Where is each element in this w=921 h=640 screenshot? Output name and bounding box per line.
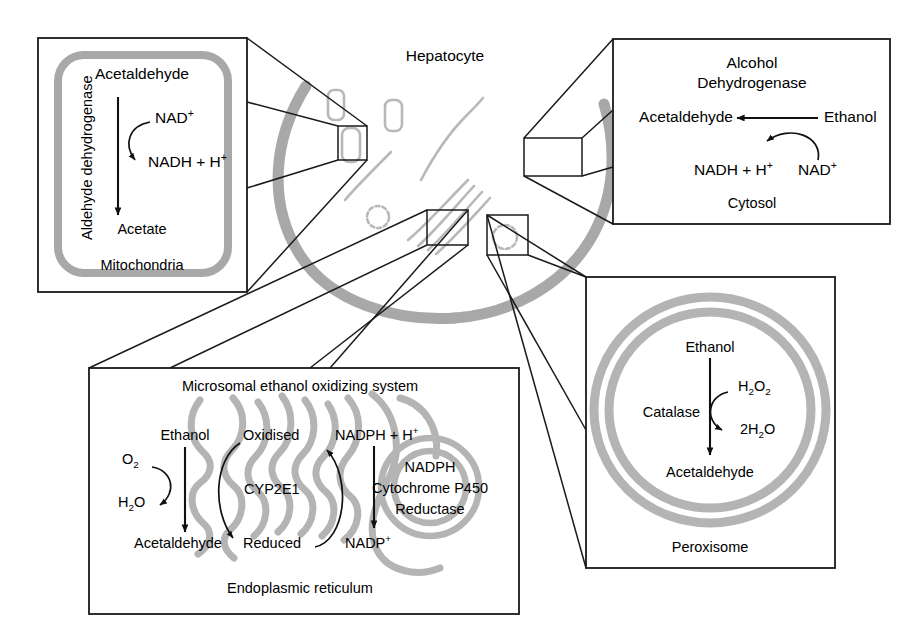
peroxisome-shape (493, 225, 517, 249)
leader-cytosol-top (524, 39, 613, 138)
er-strand (421, 98, 483, 180)
er-oxygen-label: O2 (122, 452, 139, 468)
h-symbol: H (118, 494, 128, 510)
o-subscript: 2 (133, 459, 138, 470)
leader-mitochondria-top (247, 38, 367, 126)
nadh-charge: + (221, 151, 227, 163)
mitochondria-substrate-label: Acetaldehyde (95, 66, 189, 83)
peroxisome-shape (367, 206, 389, 228)
cytosol-enzyme-line2: Dehydrogenase (697, 75, 806, 92)
er-compartment-label: Endoplasmic reticulum (227, 581, 373, 597)
er-substrate-label: Ethanol (160, 428, 209, 444)
er-state-reduced-label: Reduced (243, 536, 301, 552)
er-product-label: Acetaldehyde (134, 536, 222, 552)
nad-charge: + (188, 107, 194, 119)
peroxisome-cofactor-in-label: H2O2 (738, 379, 771, 395)
mitochondrion-shape (385, 100, 402, 131)
er-strand (428, 192, 482, 250)
er-reductase-line1: NADPH (405, 460, 456, 476)
er-state-oxidised-label: Oxidised (243, 428, 299, 444)
nadp-charge: + (385, 533, 391, 544)
leader-mitochondria-lower (247, 160, 338, 188)
peroxisome-cofactor-out-label: 2H2O (740, 422, 775, 438)
cytosol-cofactor-out-label: NADH + H+ (694, 162, 773, 179)
hepatocyte-ethanol-metabolism-figure: Hepatocyte Acetaldehyde Acetate Aldehyde… (0, 0, 921, 640)
cytosol-cofactor-in-label: NAD+ (798, 162, 837, 179)
o-symbol: O (764, 421, 775, 437)
er-water-label: H2O (118, 495, 145, 511)
o-symbol: O (122, 451, 133, 467)
leader-cytosol-bottom (524, 176, 613, 224)
peroxisome-substrate-label: Ethanol (685, 340, 734, 356)
er-reductase-line2: Cytochrome P450 (372, 481, 488, 497)
nadh-charge: + (767, 159, 773, 171)
nadh-text: NADH + H (148, 153, 221, 170)
mitochondria-product-label: Acetate (117, 222, 166, 238)
mitochondria-enzyme-label: Aldehyde dehydrogenase (80, 76, 96, 240)
mitochondria-cofactor-in-label: NAD+ (155, 110, 194, 127)
nadph-charge: + (413, 425, 419, 436)
nadh-text: NADH + H (694, 161, 767, 178)
cytosol-substrate-label: Ethanol (824, 109, 877, 126)
nad-charge: + (831, 159, 837, 171)
nadp-text: NADP (345, 535, 385, 551)
cytosol-enzyme-line1: Alcohol (727, 55, 778, 72)
h-symbol: H (738, 378, 748, 394)
cytosol-compartment-label: Cytosol (728, 196, 776, 212)
peroxisome-product-label: Acetaldehyde (666, 465, 754, 481)
nad-text: NAD (155, 109, 188, 126)
peroxisome-compartment-label: Peroxisome (672, 540, 749, 556)
o-subscript: 2 (765, 386, 770, 397)
mitochondria-cofactor-out-label: NADH + H+ (148, 154, 227, 171)
er-system-title: Microsomal ethanol oxidizing system (182, 379, 418, 395)
water-prefix: 2H (740, 421, 759, 437)
nad-text: NAD (798, 161, 831, 178)
nadph-text: NADPH + H (335, 427, 413, 443)
er-reductase-line3: Reductase (395, 502, 464, 518)
er-cofactor-out-label: NADP+ (345, 536, 391, 552)
callout-box-cytosol (524, 138, 582, 176)
panel-peroxisome (586, 277, 835, 568)
o-symbol: O (754, 378, 765, 394)
peroxisome-enzyme-label: Catalase (643, 405, 700, 421)
mitochondria-compartment-label: Mitochondria (100, 258, 183, 274)
mitochondrion-shape (342, 128, 360, 162)
mitochondrion-shape (328, 90, 344, 120)
er-enzyme-label: CYP2E1 (244, 482, 300, 498)
er-cofactor-in-label: NADPH + H+ (335, 428, 419, 444)
callout-boxes (338, 126, 582, 255)
o-symbol: O (134, 494, 145, 510)
cytosol-product-label: Acetaldehyde (639, 109, 733, 126)
leader-er-top (330, 210, 468, 368)
hepatocyte-label: Hepatocyte (406, 48, 484, 65)
